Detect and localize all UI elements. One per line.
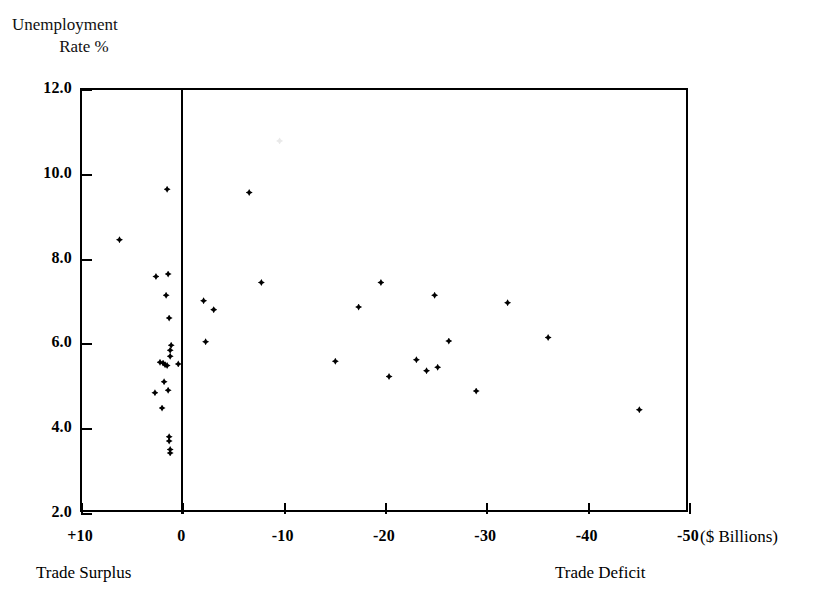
data-point (167, 449, 174, 456)
data-point (166, 315, 173, 322)
data-point (166, 438, 173, 445)
data-point (161, 378, 168, 385)
x-tick-mark (182, 503, 184, 514)
x-axis-units-label: ($ Billions) (700, 528, 778, 546)
x-tick-mark (689, 503, 691, 514)
y-tick-mark (81, 259, 92, 261)
data-point (164, 186, 171, 193)
data-point (167, 353, 174, 360)
zero-reference-line (181, 90, 183, 514)
x-tick-label: +10 (50, 528, 110, 544)
data-point (151, 389, 158, 396)
y-tick-label: 12.0 (20, 80, 72, 96)
x-tick-label: 0 (151, 528, 211, 544)
y-tick-mark (81, 343, 92, 345)
data-point (258, 279, 265, 286)
y-tick-mark (81, 428, 92, 430)
data-point (413, 356, 420, 363)
data-point (434, 364, 441, 371)
y-tick-label: 6.0 (20, 334, 72, 350)
data-point (473, 388, 480, 395)
x-tick-label: -10 (253, 528, 313, 544)
data-point (445, 338, 452, 345)
data-point (246, 189, 253, 196)
data-point (165, 271, 172, 278)
x-tick-label: -40 (557, 528, 617, 544)
plot-area (80, 88, 688, 512)
y-tick-label: 8.0 (20, 250, 72, 266)
data-point (377, 279, 384, 286)
y-tick-mark (81, 89, 92, 91)
x-tick-mark (284, 503, 286, 514)
data-point (163, 292, 170, 299)
y-tick-mark (81, 174, 92, 176)
data-point (159, 405, 166, 412)
data-point (355, 304, 362, 311)
data-point (116, 236, 123, 243)
x-tick-mark (81, 503, 83, 514)
data-point (210, 306, 217, 313)
y-tick-label: 4.0 (20, 419, 72, 435)
data-point (332, 358, 339, 365)
data-point (386, 373, 393, 380)
y-axis-title-line-2: Rate % (8, 36, 198, 58)
y-axis-title-line-1: Unemployment (8, 14, 198, 36)
data-point (423, 367, 430, 374)
x-tick-mark (588, 503, 590, 514)
y-tick-label: 10.0 (20, 165, 72, 181)
data-point (165, 387, 172, 394)
x-tick-label: -30 (455, 528, 515, 544)
data-point (276, 137, 283, 144)
trade-surplus-label: Trade Surplus (36, 564, 131, 582)
y-tick-label: 2.0 (20, 504, 72, 520)
x-tick-mark (486, 503, 488, 514)
y-axis-title: Unemployment Rate % (8, 14, 198, 58)
data-point (152, 273, 159, 280)
data-point (636, 406, 643, 413)
data-point (202, 338, 209, 345)
scatter-chart-figure: Unemployment Rate % 12.010.08.06.04.02.0… (0, 0, 839, 610)
data-point (545, 334, 552, 341)
data-point (200, 297, 207, 304)
data-point (168, 342, 175, 349)
trade-deficit-label: Trade Deficit (555, 564, 646, 582)
x-tick-mark (385, 503, 387, 514)
x-tick-label: -20 (354, 528, 414, 544)
data-point (431, 292, 438, 299)
data-point (504, 299, 511, 306)
